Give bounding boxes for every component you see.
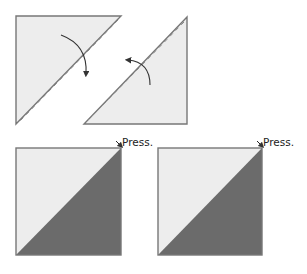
left-square: Press. [16, 136, 153, 255]
press-label: Press. [122, 136, 153, 148]
press-arrow-icon [257, 141, 262, 146]
right-square: Press. [158, 136, 294, 255]
press-label: Press. [263, 136, 294, 148]
press-arrow-icon [116, 141, 121, 146]
hst-diagram: Press. Press. [0, 0, 307, 274]
